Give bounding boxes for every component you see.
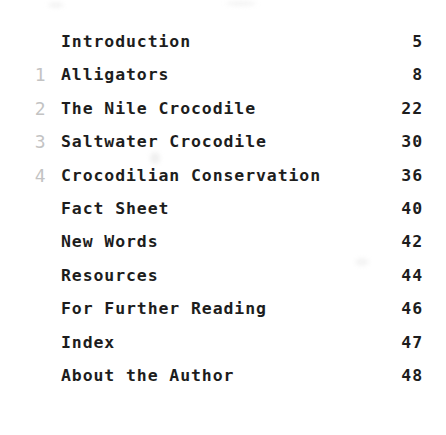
page-number: 47 [401, 326, 423, 359]
table-of-contents: Introduction51Alligators82The Nile Croco… [0, 0, 446, 392]
chapter-number: 4 [0, 159, 46, 192]
entry-title[interactable]: Index [61, 326, 115, 359]
toc-entry[interactable]: For Further Reading46 [0, 292, 446, 325]
page-number: 46 [401, 292, 423, 325]
toc-entry[interactable]: 2The Nile Crocodile22 [0, 92, 446, 125]
page-number: 5 [412, 25, 423, 58]
entry-title[interactable]: Fact Sheet [61, 192, 169, 225]
chapter-number: 3 [0, 125, 46, 158]
entry-title[interactable]: About the Author [61, 359, 234, 392]
chapter-number: 1 [0, 58, 46, 91]
entry-title[interactable]: The Nile Crocodile [61, 92, 256, 125]
toc-entry[interactable]: Index47 [0, 326, 446, 359]
entry-title[interactable]: Saltwater Crocodile [61, 125, 267, 158]
toc-entry[interactable]: New Words42 [0, 225, 446, 258]
toc-entry[interactable]: 4Crocodilian Conservation36 [0, 159, 446, 192]
toc-entry[interactable]: 3Saltwater Crocodile30 [0, 125, 446, 158]
entry-title[interactable]: Crocodilian Conservation [61, 159, 321, 192]
entry-title[interactable]: Alligators [61, 58, 169, 91]
page-number: 40 [401, 192, 423, 225]
page-number: 30 [401, 125, 423, 158]
toc-entry[interactable]: 1Alligators8 [0, 58, 446, 91]
entry-title[interactable]: Resources [61, 259, 159, 292]
entry-title[interactable]: New Words [61, 225, 159, 258]
chapter-number: 2 [0, 92, 46, 125]
page-number: 44 [401, 259, 423, 292]
page-number: 22 [401, 92, 423, 125]
toc-entry[interactable]: Fact Sheet40 [0, 192, 446, 225]
toc-entry[interactable]: Introduction5 [0, 25, 446, 58]
entry-title[interactable]: Introduction [61, 25, 191, 58]
page-number: 36 [401, 159, 423, 192]
toc-entry[interactable]: About the Author48 [0, 359, 446, 392]
entry-title[interactable]: For Further Reading [61, 292, 267, 325]
page-number: 48 [401, 359, 423, 392]
page-number: 8 [412, 58, 423, 91]
toc-entry[interactable]: Resources44 [0, 259, 446, 292]
page-number: 42 [401, 225, 423, 258]
